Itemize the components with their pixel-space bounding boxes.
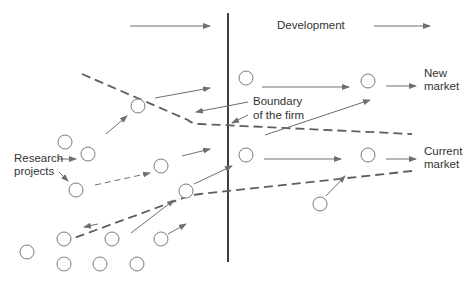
project-node (131, 99, 145, 113)
project-node (69, 183, 83, 197)
project-node (57, 257, 71, 271)
research-label-line1: Research (14, 152, 63, 164)
flow-arrow (106, 116, 127, 134)
current-market-label-line2: market (424, 158, 460, 170)
flow-arrow (131, 200, 174, 233)
boundary-arrow (196, 102, 248, 112)
project-node (105, 232, 119, 246)
lower-boundary-dashed (66, 171, 412, 241)
boundary-label-line2: of the firm (253, 109, 304, 121)
project-node (130, 257, 144, 271)
project-node (313, 197, 327, 211)
project-nodes (20, 71, 375, 271)
project-node (93, 257, 107, 271)
boundary-label-line1: Boundary (253, 95, 302, 107)
project-node (239, 71, 253, 85)
project-node (154, 159, 168, 173)
current-market-label-line1: Current (424, 145, 463, 157)
project-node (239, 148, 253, 162)
boundary-arrow (232, 115, 248, 123)
flow-arrow (194, 166, 232, 184)
new-market-label-line2: market (424, 80, 460, 92)
flow-arrow-back (84, 224, 98, 227)
project-node (58, 135, 72, 149)
new-market-label-line1: New (424, 67, 448, 79)
open-innovation-diagram: Development New (0, 0, 468, 284)
flow-arrow-dashed (95, 173, 150, 185)
research-arrow (59, 172, 68, 181)
development-label: Development (277, 19, 346, 31)
project-node (57, 232, 71, 246)
project-node (361, 148, 375, 162)
flow-arrow (168, 224, 186, 234)
project-node (179, 184, 193, 198)
flow-arrow (182, 149, 210, 156)
research-label-line2: projects (14, 165, 55, 177)
flow-arrow (155, 88, 210, 98)
project-node (154, 232, 168, 246)
project-node (361, 74, 375, 88)
project-node (20, 245, 34, 259)
project-node (81, 147, 95, 161)
